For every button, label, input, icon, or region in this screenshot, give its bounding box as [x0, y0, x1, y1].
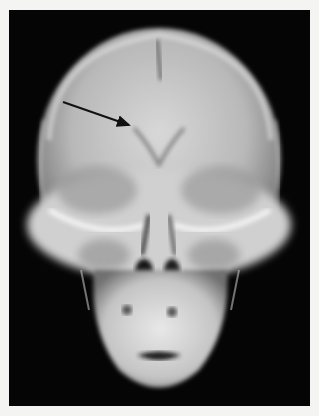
- xray-image: [9, 10, 310, 406]
- midface: [27, 166, 291, 285]
- mandible: [81, 270, 239, 388]
- skull-radiograph: [9, 10, 310, 406]
